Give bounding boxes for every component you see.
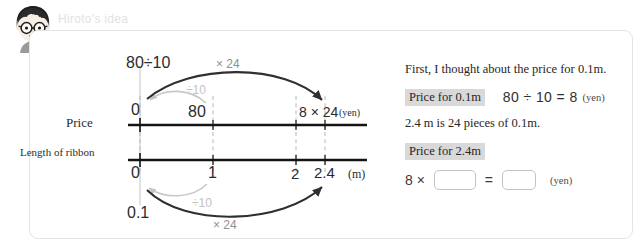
price-for-two-point-four-tag: Price for 2.4m bbox=[405, 143, 485, 160]
step-two-tag-row: Price for 2.4m bbox=[405, 143, 620, 160]
price-for-point-one-tag: Price for 0.1m bbox=[405, 89, 485, 106]
answer-lead: 8 × bbox=[405, 172, 425, 188]
step-one-equation: 80 ÷ 10 = 8 bbox=[503, 89, 578, 105]
step-one-row: Price for 0.1m 80 ÷ 10 = 8 (yen) bbox=[405, 89, 620, 106]
answer-unit: (yen) bbox=[550, 175, 572, 186]
answer-equals: = bbox=[485, 172, 493, 188]
page-title: Hiroto's idea bbox=[58, 12, 128, 26]
worksheet-root: Hiroto's idea bbox=[0, 0, 640, 247]
answer-row: 8 × = (yen) bbox=[405, 170, 620, 190]
answer-blank-multiplier[interactable] bbox=[434, 170, 476, 190]
explanation-panel: First, I thought about the price for 0.1… bbox=[405, 62, 620, 190]
answer-blank-result[interactable] bbox=[502, 170, 536, 190]
step-one-unit: (yen) bbox=[583, 92, 605, 103]
explanation-intro: First, I thought about the price for 0.1… bbox=[405, 62, 620, 78]
explanation-note: 2.4 m is 24 pieces of 0.1m. bbox=[405, 116, 620, 132]
